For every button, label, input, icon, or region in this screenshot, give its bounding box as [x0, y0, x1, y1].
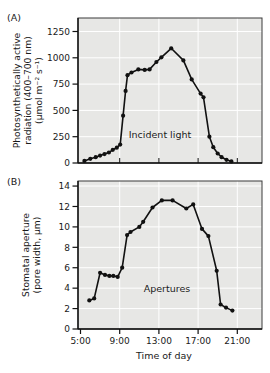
data-point — [82, 159, 86, 163]
data-point — [125, 233, 129, 237]
data-point — [219, 302, 223, 306]
data-point — [129, 70, 133, 74]
data-point — [88, 157, 92, 161]
data-point — [160, 198, 164, 202]
panel-b-y-axis-label-line1: Stomatal aperture — [20, 185, 31, 325]
data-point — [191, 202, 195, 206]
plot-area-panel-B — [78, 181, 262, 329]
two-panel-line-chart-figure: 025050075010001250024681012145:009:0013:… — [0, 0, 270, 373]
data-point — [137, 225, 141, 229]
y-tick-label: 14 — [59, 181, 71, 191]
y-tick-label: 4 — [64, 283, 70, 293]
data-point — [102, 152, 106, 156]
data-point — [184, 206, 188, 210]
data-point — [98, 271, 102, 275]
data-point — [94, 155, 98, 159]
x-tick-label: 21:00 — [224, 336, 250, 346]
data-point — [200, 227, 204, 231]
data-point — [143, 68, 147, 72]
x-tick-label: 17:00 — [185, 336, 211, 346]
data-point — [159, 55, 163, 59]
data-point — [107, 150, 111, 154]
data-point — [150, 205, 154, 209]
panel-a-y-axis-label-line2: radiation (400–700 nm) — [22, 11, 33, 171]
data-point — [128, 230, 132, 234]
data-point — [190, 77, 194, 81]
x-axis-label: Time of day — [114, 350, 214, 361]
y-tick-label: 500 — [53, 106, 70, 116]
x-tick-label: 13:00 — [146, 336, 172, 346]
data-point — [107, 274, 111, 278]
data-point — [103, 273, 107, 277]
data-point — [87, 298, 91, 302]
panel-b-series-annotation: Apertures — [117, 283, 217, 294]
data-point — [220, 155, 224, 159]
data-point — [171, 198, 175, 202]
data-point — [229, 159, 233, 163]
data-point — [224, 158, 228, 162]
data-point — [216, 151, 220, 155]
data-point — [121, 114, 125, 118]
y-tick-label: 10 — [59, 222, 71, 232]
panel-a-series-annotation: Incident light — [110, 129, 210, 140]
data-point — [169, 46, 173, 50]
panel-b-y-axis-label-line2: (pore width, μm) — [31, 185, 42, 325]
y-tick-label: 0 — [64, 158, 70, 168]
y-tick-label: 6 — [64, 263, 70, 273]
y-tick-label: 12 — [59, 202, 70, 212]
data-point — [211, 145, 215, 149]
data-point — [120, 266, 124, 270]
y-tick-label: 250 — [53, 132, 70, 142]
data-point — [124, 89, 128, 93]
data-point — [92, 296, 96, 300]
data-point — [115, 146, 119, 150]
y-tick-label: 750 — [53, 79, 70, 89]
data-point — [118, 143, 122, 147]
data-point — [181, 58, 185, 62]
data-point — [98, 154, 102, 158]
y-tick-label: 1250 — [47, 27, 70, 37]
data-point — [136, 67, 140, 71]
y-tick-label: 8 — [64, 243, 70, 253]
plot-area-panel-A — [78, 18, 262, 163]
data-point — [230, 309, 234, 313]
panel-a-y-axis-label: Photosynthetically active radiation (400… — [11, 11, 44, 171]
data-point — [111, 148, 115, 152]
panel-b-label: (B) — [7, 176, 21, 187]
data-point — [154, 60, 158, 64]
data-point — [111, 274, 115, 278]
x-tick-label: 5:00 — [70, 336, 90, 346]
data-point — [116, 275, 120, 279]
data-point — [215, 269, 219, 273]
y-tick-label: 0 — [64, 324, 70, 334]
data-point — [201, 95, 205, 99]
panel-a-y-axis-label-line3: (μmol m⁻² s⁻¹) — [33, 11, 44, 171]
data-point — [199, 92, 203, 96]
data-point — [125, 73, 129, 77]
panel-a-y-axis-label-line1: Photosynthetically active — [11, 11, 22, 171]
panel-b-y-axis-label: Stomatal aperture (pore width, μm) — [20, 185, 42, 325]
data-point — [206, 234, 210, 238]
data-point — [224, 306, 228, 310]
y-tick-label: 2 — [64, 304, 70, 314]
data-point — [141, 220, 145, 224]
data-point — [148, 67, 152, 71]
y-tick-label: 1000 — [47, 53, 70, 63]
x-tick-label: 9:00 — [110, 336, 130, 346]
